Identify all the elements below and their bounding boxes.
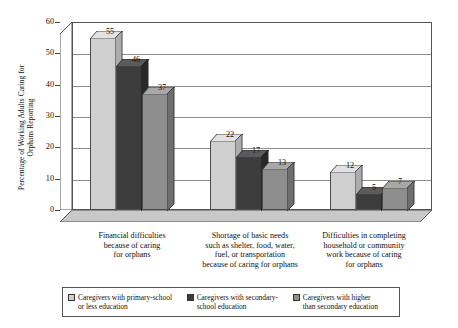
x-category-label-3: Difficulties in completing household or … [300, 231, 428, 269]
bar-g3-s3 [382, 188, 408, 210]
y-axis: 60 50 40 30 20 10 0 [26, 22, 60, 222]
y-tick-label-30: 30 [46, 112, 54, 120]
y-tick-label-50: 50 [46, 49, 54, 57]
value-label-g1-s2: 46 [132, 56, 140, 64]
y-tick-label-60: 60 [46, 18, 54, 26]
value-label-g2-s1: 22 [226, 131, 234, 139]
legend-item-2[interactable]: Caregivers with secondary- school educat… [187, 293, 293, 311]
value-label-g1-s1: 55 [106, 28, 114, 36]
value-label-g3-s1: 12 [346, 162, 354, 170]
legend-swatch-primary-school-icon [68, 294, 75, 301]
y-tick-label-40: 40 [46, 80, 54, 88]
bar-g2-s2 [236, 157, 262, 210]
value-label-g2-s2: 17 [252, 147, 260, 155]
value-label-g2-s3: 13 [278, 159, 286, 167]
y-tick-label-0: 0 [50, 206, 54, 214]
legend: Caregivers with primary-school or less e… [62, 287, 400, 317]
bar-g1-s3 [142, 94, 168, 210]
bar-g1-s2 [116, 66, 142, 210]
bar-g3-s1 [330, 172, 356, 210]
value-label-g3-s2: 5 [372, 184, 376, 192]
axis-wall-3d [60, 22, 73, 210]
legend-label-3: Caregivers with higher than secondary ed… [303, 293, 378, 311]
gridline-50 [73, 54, 431, 55]
value-label-g1-s3: 37 [158, 84, 166, 92]
bar-chart: Percentage of Working Adults Caring for … [0, 0, 458, 328]
value-label-g3-s3: 7 [398, 178, 402, 186]
bar-g3-s2 [356, 194, 382, 210]
axis-floor-3d [60, 209, 432, 222]
x-category-label-2: Shortage of basic needs such as shelter,… [185, 231, 315, 269]
legend-swatch-higher-education-icon [293, 294, 300, 301]
bar-g2-s3 [262, 169, 288, 210]
y-tick-label-20: 20 [46, 143, 54, 151]
legend-item-3[interactable]: Caregivers with higher than secondary ed… [293, 293, 394, 311]
bar-g1-s1 [90, 38, 116, 210]
plot-area: 55 46 37 [60, 22, 432, 222]
legend-item-1[interactable]: Caregivers with primary-school or less e… [68, 293, 187, 311]
x-category-label-1: Financial difficulties because of caring… [62, 231, 202, 260]
legend-label-2: Caregivers with secondary- school educat… [197, 293, 278, 311]
bar-g2-s1 [210, 141, 236, 210]
legend-label-1: Caregivers with primary-school or less e… [78, 293, 172, 311]
y-tick-label-10: 10 [46, 174, 54, 182]
legend-swatch-secondary-school-icon [187, 294, 194, 301]
